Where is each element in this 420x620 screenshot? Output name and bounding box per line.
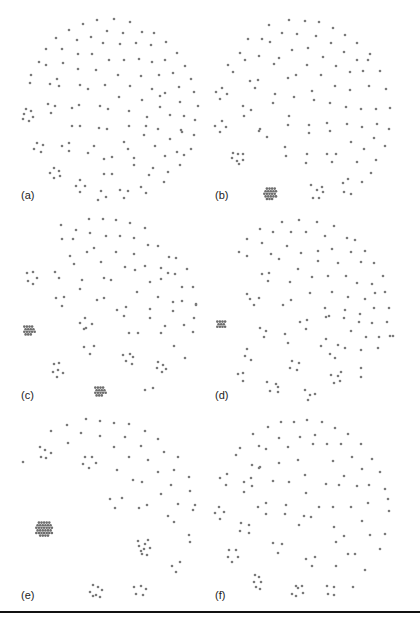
particle-dot	[345, 106, 348, 109]
particle-dot	[40, 151, 43, 154]
particle-dot	[171, 565, 174, 568]
particle-dot	[317, 260, 320, 263]
particle-dot	[194, 119, 197, 122]
particle-dot	[149, 281, 152, 284]
particle-dot	[77, 68, 80, 71]
dense-cluster	[35, 521, 53, 537]
particle-dot	[91, 323, 94, 326]
particle-dot	[163, 181, 166, 184]
particle-dot	[129, 21, 132, 24]
particle-dot	[49, 83, 52, 86]
particle-dot	[58, 170, 61, 173]
particle-dot	[304, 20, 307, 23]
particle-dot	[145, 125, 148, 128]
particle-dot	[32, 283, 35, 286]
particle-dot	[388, 307, 391, 310]
particle-dot	[79, 191, 82, 194]
particle-dot	[83, 346, 86, 349]
particle-dot	[251, 464, 254, 467]
particle-dot	[239, 530, 242, 533]
particle-dot	[242, 153, 245, 156]
particle-dot	[299, 436, 302, 439]
particle-dot	[176, 52, 179, 55]
particle-dot	[243, 115, 246, 118]
particle-dot	[371, 458, 374, 461]
particle-dot	[165, 368, 168, 371]
particle-dot	[327, 275, 330, 278]
particle-dot	[311, 90, 314, 93]
particle-dot	[115, 251, 118, 254]
particle-dot	[124, 266, 127, 269]
particle-dot	[146, 554, 149, 557]
particle-dot	[33, 148, 36, 151]
particle-dot	[305, 328, 308, 331]
particle-dot	[385, 88, 388, 91]
particle-dot	[32, 116, 35, 119]
particle-dot	[219, 131, 222, 134]
particle-dot	[332, 460, 335, 463]
particle-dot	[77, 53, 80, 56]
particle-dot	[368, 85, 371, 88]
particle-dot	[123, 315, 126, 318]
particle-dot	[149, 308, 152, 311]
particle-dot	[329, 102, 332, 105]
particle-dot	[119, 43, 122, 46]
particle-dot	[189, 490, 192, 493]
particle-dot	[106, 128, 109, 131]
particle-dot	[116, 309, 119, 312]
particle-dot	[325, 483, 328, 486]
particle-dot	[167, 171, 170, 174]
particle-dot	[320, 345, 323, 348]
particle-dot	[277, 386, 280, 389]
particle-dot	[379, 70, 382, 73]
particle-dot	[140, 75, 143, 78]
particle-dot	[149, 317, 152, 320]
particle-dot	[265, 330, 268, 333]
particle-dot	[305, 162, 308, 165]
particle-dot	[261, 38, 264, 41]
particle-dot	[284, 513, 287, 516]
particle-dot	[32, 271, 35, 274]
particle-dot	[288, 481, 291, 484]
particle-dot	[260, 581, 263, 584]
particle-dot	[257, 506, 260, 509]
particle-dot	[278, 437, 281, 440]
particle-dot	[371, 283, 374, 286]
particle-dot	[71, 125, 74, 128]
particle-dot	[127, 148, 130, 151]
particle-dot	[95, 594, 98, 597]
particle-dot	[360, 108, 363, 111]
particle-dot	[133, 586, 136, 589]
particle-dot	[124, 436, 127, 439]
particle-dot	[231, 157, 234, 160]
particle-dot	[101, 589, 104, 592]
particle-dot	[322, 56, 325, 59]
particle-dot	[193, 134, 196, 137]
particle-dot	[254, 87, 257, 90]
particle-dot	[66, 424, 69, 427]
particle-dot	[324, 235, 327, 238]
particle-dot	[164, 59, 167, 62]
particle-dot	[159, 106, 162, 109]
particle-dot	[356, 161, 359, 164]
particle-dot	[133, 157, 136, 160]
particle-dot	[291, 593, 294, 596]
particle-dot	[160, 278, 163, 281]
particle-dot	[258, 467, 261, 470]
particle-dot	[340, 443, 343, 446]
particle-dot	[361, 520, 364, 523]
particle-dot	[236, 160, 239, 163]
particle-dot	[78, 104, 81, 107]
particle-dot	[99, 435, 102, 438]
particle-dot	[252, 433, 255, 436]
particle-dot	[309, 394, 312, 397]
particle-dot	[333, 225, 336, 228]
particle-dot	[237, 373, 240, 376]
particle-dot	[82, 23, 85, 26]
particle-dot	[360, 349, 363, 352]
particle-dot	[113, 18, 116, 21]
figure-panels: (a) (b) (c) (d) (e) (f)	[0, 0, 420, 620]
particle-dot	[312, 443, 315, 446]
particle-dot	[272, 231, 275, 234]
particle-dot	[227, 556, 230, 559]
